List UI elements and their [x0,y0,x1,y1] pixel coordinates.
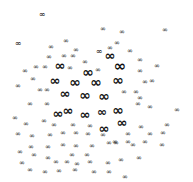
infinity-icon: ∞ [113,140,119,147]
infinity-icon: ∞ [106,169,112,176]
infinity-icon: ∞ [90,75,102,89]
infinity-icon: ∞ [122,174,128,181]
infinity-icon: ∞ [72,167,78,174]
infinity-icon: ∞ [91,169,97,176]
infinity-icon: ∞ [63,38,69,45]
infinity-icon: ∞ [73,143,79,150]
infinity-icon: ∞ [63,104,74,117]
infinity-icon: ∞ [100,26,106,33]
infinity-icon: ∞ [70,53,76,60]
infinity-icon: ∞ [112,73,124,87]
infinity-icon: ∞ [33,64,39,71]
infinity-icon: ∞ [97,106,107,118]
infinity-icon: ∞ [127,48,133,55]
infinity-icon: ∞ [12,115,18,122]
infinity-icon: ∞ [95,67,101,74]
infinity-icon: ∞ [60,87,71,100]
infinity-icon: ∞ [118,157,124,164]
infinity-icon: ∞ [55,59,66,72]
infinity-icon: ∞ [89,143,95,150]
infinity-icon: ∞ [46,54,52,61]
infinity-icon: ∞ [117,116,128,129]
infinity-icon: ∞ [48,44,54,51]
infinity-icon: ∞ [42,169,48,176]
infinity-icon: ∞ [53,159,59,166]
infinity-icon: ∞ [164,122,170,129]
infinity-icon: ∞ [147,131,153,138]
infinity-icon: ∞ [29,133,35,140]
infinity-icon: ∞ [31,152,37,159]
infinity-icon: ∞ [100,132,106,139]
infinity-icon: ∞ [23,121,29,128]
infinity-icon: ∞ [19,160,25,167]
infinity-icon: ∞ [160,130,166,137]
infinity-icon: ∞ [125,131,131,138]
infinity-icon: ∞ [15,40,22,48]
infinity-icon: ∞ [15,131,21,138]
infinity-icon: ∞ [44,87,50,94]
infinity-icon: ∞ [142,139,148,146]
infinity-icon: ∞ [15,83,21,90]
infinity-icon: ∞ [121,89,127,96]
infinity-icon: ∞ [136,155,142,162]
infinity-icon: ∞ [60,142,66,149]
infinity-icon: ∞ [30,76,36,83]
infinity-icon: ∞ [106,140,112,147]
infinity-symbol-cloud: ∞∞∞∞∞∞∞∞∞∞∞∞∞∞∞∞∞∞∞∞∞∞∞∞∞∞∞∞∞∞∞∞∞∞∞∞∞∞∞∞… [0,0,193,182]
infinity-icon: ∞ [87,159,93,166]
infinity-icon: ∞ [60,130,66,137]
infinity-icon: ∞ [79,88,91,102]
infinity-icon: ∞ [27,167,33,174]
infinity-icon: ∞ [119,29,125,36]
infinity-icon: ∞ [154,63,160,70]
infinity-icon: ∞ [27,101,33,108]
infinity-icon: ∞ [96,48,103,56]
infinity-icon: ∞ [137,57,143,64]
infinity-icon: ∞ [64,159,70,166]
infinity-icon: ∞ [17,149,23,156]
infinity-icon: ∞ [80,108,91,121]
infinity-icon: ∞ [138,124,144,131]
infinity-icon: ∞ [28,144,34,151]
infinity-icon: ∞ [147,104,153,111]
infinity-icon: ∞ [87,123,93,130]
infinity-icon: ∞ [114,40,120,47]
infinity-icon: ∞ [162,27,168,34]
infinity-icon: ∞ [98,89,110,103]
infinity-icon: ∞ [45,144,51,151]
infinity-icon: ∞ [135,101,141,108]
infinity-icon: ∞ [174,107,180,114]
infinity-icon: ∞ [105,160,111,167]
infinity-icon: ∞ [149,78,155,85]
infinity-icon: ∞ [41,118,47,125]
infinity-icon: ∞ [56,168,62,175]
infinity-icon: ∞ [130,142,136,149]
infinity-icon: ∞ [47,132,53,139]
infinity-icon: ∞ [159,142,165,149]
infinity-icon: ∞ [42,64,48,71]
infinity-icon: ∞ [51,122,57,129]
infinity-icon: ∞ [142,79,148,86]
infinity-icon: ∞ [137,68,143,75]
infinity-icon: ∞ [45,155,51,162]
infinity-icon: ∞ [73,130,79,137]
infinity-icon: ∞ [67,65,73,72]
infinity-icon: ∞ [70,122,76,129]
infinity-icon: ∞ [37,87,43,94]
infinity-icon: ∞ [44,101,50,108]
infinity-icon: ∞ [85,131,91,138]
infinity-icon: ∞ [39,11,46,19]
infinity-icon: ∞ [22,68,28,75]
